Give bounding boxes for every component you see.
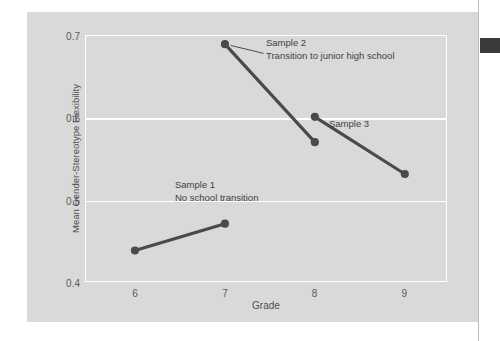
y-axis-title: Mean Gender-Stereotype Flexibility — [68, 35, 82, 282]
y-tick-label-2: 0.5 — [66, 195, 80, 206]
annotation-sample-3-line1: Sample 3 — [329, 118, 369, 131]
x-tick-label-2: 8 — [312, 288, 318, 299]
annotation-sample-1-line2: No school transition — [175, 192, 258, 205]
series-sample-1[interactable] — [131, 220, 229, 255]
y-axis-title-text: Mean Gender-Stereotype Flexibility — [70, 84, 81, 233]
x-axis-title: Grade — [85, 300, 447, 311]
y-tick-label-3: 0.4 — [66, 278, 80, 289]
annotation-sample-2: Sample 2 Transition to junior high schoo… — [266, 37, 395, 62]
series-layer — [86, 36, 446, 281]
x-tick-label-1: 7 — [222, 288, 228, 299]
annotation-sample-2-line2: Transition to junior high school — [266, 50, 395, 63]
data-point-sample-2-grade-7[interactable] — [221, 40, 229, 48]
data-point-sample-3-grade-9[interactable] — [401, 170, 409, 178]
annotation-sample-1-line1: Sample 1 — [175, 179, 258, 192]
annotation-sample-1: Sample 1 No school transition — [175, 179, 258, 204]
plot-area: 0.7 0.6 0.5 0.4 6 7 8 9 — [85, 35, 447, 282]
data-point-sample-2-grade-8[interactable] — [311, 138, 319, 146]
document-page-view[interactable]: Mean Gender-Stereotype Flexibility 0.7 0… — [0, 0, 478, 341]
annotation-sample-2-line1: Sample 2 — [266, 37, 395, 50]
vertical-scrollbar-thumb[interactable] — [480, 38, 500, 53]
data-point-sample-3-grade-8[interactable] — [311, 113, 319, 121]
x-tick-label-3: 9 — [401, 288, 407, 299]
x-tick-label-0: 6 — [132, 288, 138, 299]
data-point-sample-1-grade-6[interactable] — [131, 246, 139, 254]
series-sample-1-line — [135, 224, 225, 251]
y-tick-label-1: 0.6 — [66, 113, 80, 124]
data-point-sample-1-grade-7[interactable] — [221, 220, 229, 228]
figure-panel: Mean Gender-Stereotype Flexibility 0.7 0… — [27, 12, 478, 322]
y-tick-label-0: 0.7 — [66, 31, 80, 42]
vertical-scrollbar-track[interactable] — [478, 0, 499, 341]
annotation-leader-line-sample-2 — [231, 45, 264, 53]
annotation-sample-3: Sample 3 — [329, 118, 369, 131]
